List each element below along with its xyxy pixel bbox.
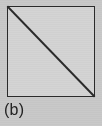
diagonal-line-icon — [8, 7, 94, 96]
panel-label: (b) — [4, 100, 24, 120]
diagonal-stroke — [8, 7, 94, 96]
square-shape — [7, 6, 95, 97]
figure-panel: (b) — [0, 0, 102, 126]
